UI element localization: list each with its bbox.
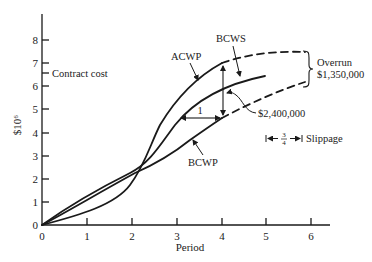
y-tick-labels: 0 1 2 3 4 5 6 7 8 — [33, 34, 39, 231]
y-axis-label: $10⁶ — [11, 115, 23, 136]
schedule-gap-label: 1 — [197, 105, 202, 116]
acwp-leader — [190, 63, 198, 80]
x-tick-0: 0 — [39, 230, 45, 242]
acwp-curve — [42, 63, 222, 225]
y-tick-8: 8 — [33, 34, 39, 46]
contract-cost-label: Contract cost — [52, 68, 108, 79]
slippage-label: Slippage — [306, 133, 343, 144]
variance-label: $2,400,000 — [258, 108, 305, 119]
x-tick-6: 6 — [308, 230, 314, 242]
x-axis-label: Period — [176, 241, 205, 253]
bcws-label: BCWS — [216, 33, 246, 44]
y-tick-6: 6 — [33, 80, 39, 92]
slippage-denominator: 4 — [282, 139, 286, 147]
x-tick-5: 5 — [263, 230, 269, 242]
y-tick-7: 7 — [33, 57, 39, 69]
y-tick-4: 4 — [33, 127, 39, 139]
bcws-leader — [233, 46, 240, 76]
earned-value-chart: 0 1 2 3 4 5 6 7 8 0 1 2 3 4 5 6 Period $… — [0, 0, 372, 262]
y-tick-2: 2 — [33, 173, 39, 185]
y-tick-3: 3 — [33, 150, 39, 162]
bcwp-leader — [193, 140, 203, 155]
axes — [42, 14, 330, 225]
y-tick-5: 5 — [33, 103, 39, 115]
x-tick-1: 1 — [84, 230, 90, 242]
slippage-numerator: 3 — [282, 131, 286, 139]
bcwp-label: BCWP — [188, 157, 218, 168]
x-tick-2: 2 — [129, 230, 135, 242]
acwp-label: ACWP — [171, 51, 201, 62]
overrun-label: Overrun — [317, 57, 353, 68]
overrun-amount: $1,350,000 — [317, 69, 364, 80]
y-tick-1: 1 — [33, 196, 39, 208]
x-tick-4: 4 — [219, 230, 225, 242]
bcws-curve — [42, 76, 265, 225]
y-tick-0: 0 — [33, 219, 39, 231]
variance-leader — [227, 92, 256, 113]
